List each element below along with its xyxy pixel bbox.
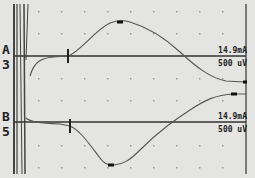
channel-b-sensitivity: 500 uV bbox=[218, 125, 247, 134]
emg-ncs-display: A 3 14.9mA 500 uV B 5 14.9mA 500 uV bbox=[0, 0, 255, 178]
channel-a-number: 3 bbox=[2, 58, 10, 71]
channel-a-label: A bbox=[2, 43, 10, 56]
stimulus-artifact bbox=[14, 4, 28, 174]
trace-a bbox=[30, 21, 244, 82]
grid-dots bbox=[38, 11, 224, 169]
channel-a-stimulus: 14.9mA bbox=[218, 46, 247, 55]
end-marker-a bbox=[243, 81, 247, 84]
channel-b-label: B bbox=[2, 110, 10, 123]
channel-b-number: 5 bbox=[2, 125, 10, 138]
waveform-plot bbox=[0, 0, 255, 178]
end-marker-b bbox=[231, 93, 237, 96]
channel-b-stimulus: 14.9mA bbox=[218, 112, 247, 121]
peak-marker-b bbox=[108, 164, 114, 167]
peak-marker-a bbox=[117, 21, 123, 24]
channel-a-sensitivity: 500 uV bbox=[218, 59, 247, 68]
trace-b bbox=[26, 94, 246, 165]
